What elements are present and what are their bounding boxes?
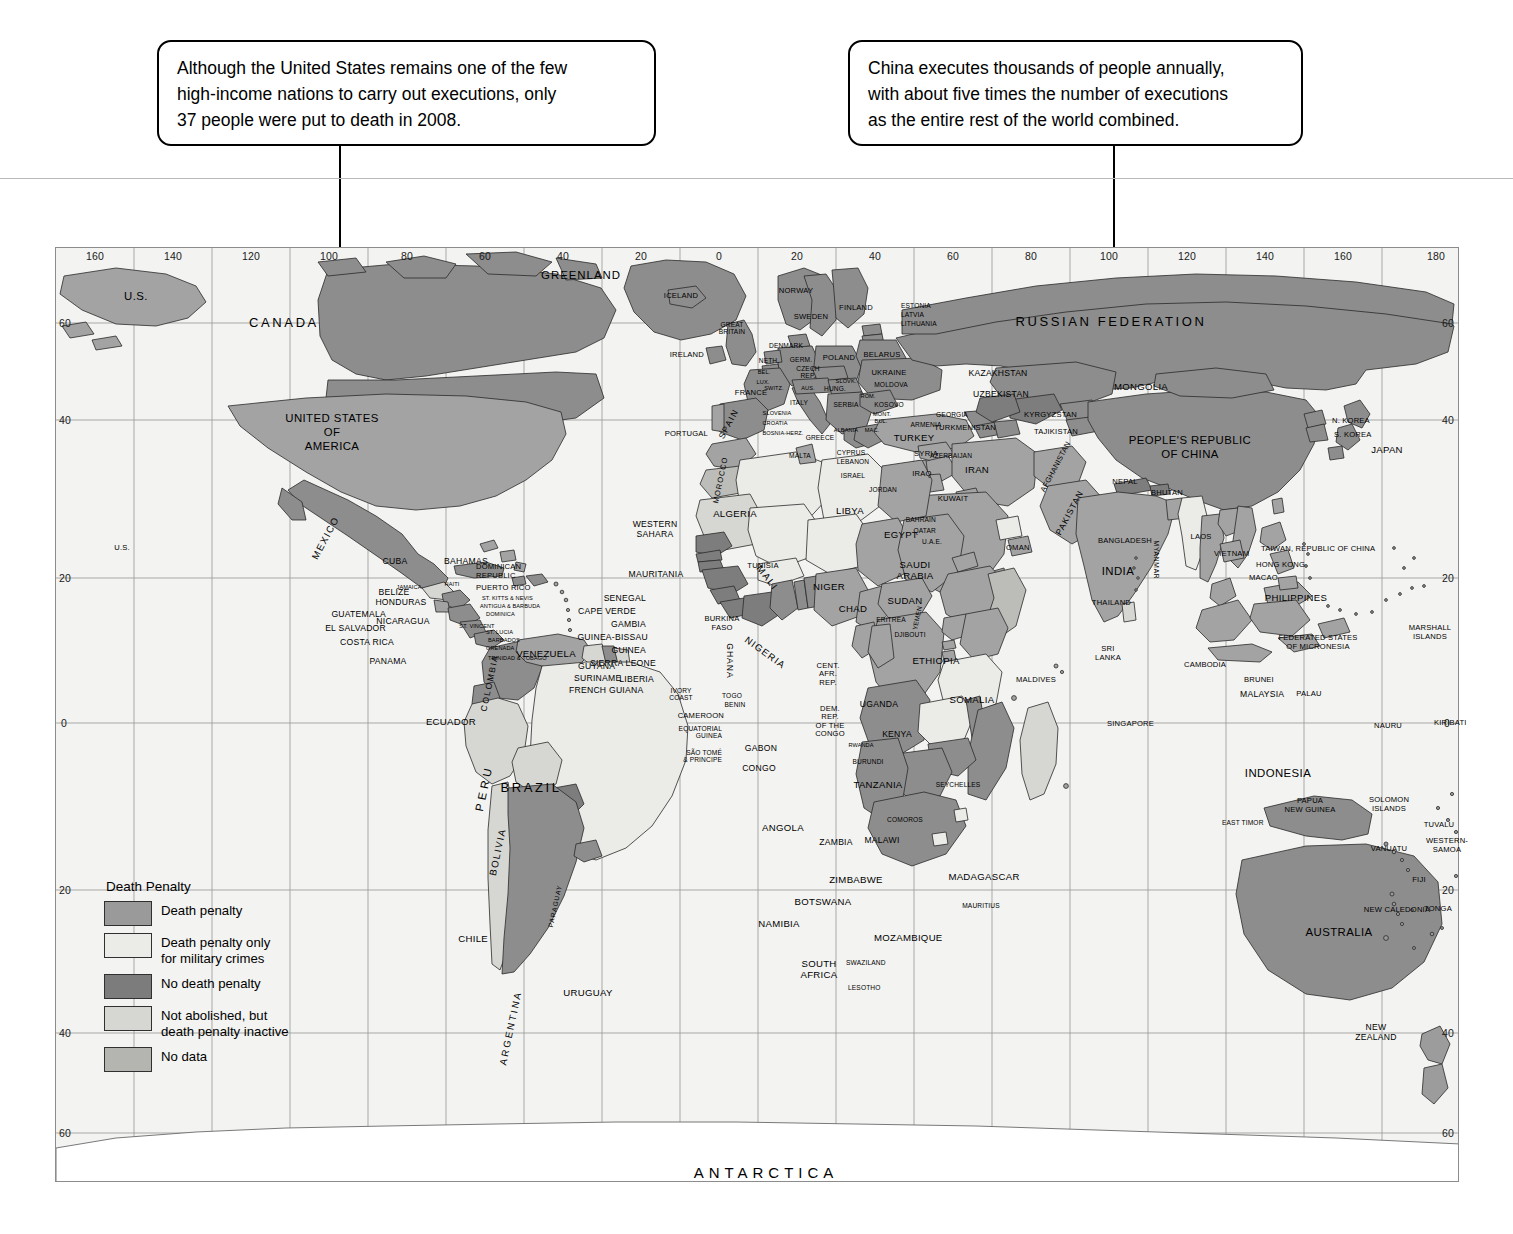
lat-tick: 0 (61, 717, 67, 729)
lon-tick: 80 (401, 250, 413, 262)
lat-tick: 20 (59, 884, 71, 896)
lat-tick: 40 (1442, 1027, 1454, 1039)
us-callout-line-3: 37 people were put to death in 2008. (177, 108, 636, 134)
lon-tick: 20 (791, 250, 803, 262)
lat-tick: 60 (59, 1127, 71, 1139)
lon-tick: 0 (716, 250, 722, 262)
us-callout-line-1: Although the United States remains one o… (177, 56, 636, 82)
lon-tick: 60 (479, 250, 491, 262)
china-callout-line-2: with about five times the number of exec… (868, 82, 1283, 108)
lat-tick: 20 (1442, 884, 1454, 896)
legend-item-no-death-penalty: No death penalty (104, 974, 320, 999)
legend-label: Not abolished, but death penalty inactiv… (161, 1006, 289, 1040)
legend-title: Death Penalty (106, 879, 320, 894)
lat-tick: 60 (59, 317, 71, 329)
lat-tick: 20 (59, 572, 71, 584)
legend-label: Death penalty only for military crimes (161, 933, 270, 967)
lon-tick: 180 (1427, 250, 1445, 262)
lat-tick: 40 (59, 414, 71, 426)
lon-tick: 100 (320, 250, 338, 262)
lon-tick: 140 (1256, 250, 1274, 262)
us-callout-line-2: high-income nations to carry out executi… (177, 82, 636, 108)
legend-item-inactive: Not abolished, but death penalty inactiv… (104, 1006, 320, 1040)
china-callout: China executes thousands of people annua… (848, 40, 1303, 146)
lon-tick: 120 (1178, 250, 1196, 262)
legend-label: No death penalty (161, 974, 261, 992)
lon-tick: 40 (869, 250, 881, 262)
lon-tick: 60 (947, 250, 959, 262)
legend-item-no-data: No data (104, 1047, 320, 1072)
lon-tick: 100 (1100, 250, 1118, 262)
lat-tick: 60 (1442, 317, 1454, 329)
legend-label: Death penalty (161, 901, 242, 919)
china-callout-line-1: China executes thousands of people annua… (868, 56, 1283, 82)
header-divider (0, 178, 1513, 179)
legend-swatch (104, 933, 152, 958)
legend-item-death-penalty: Death penalty (104, 901, 320, 926)
lon-tick: 160 (86, 250, 104, 262)
us-callout: Although the United States remains one o… (157, 40, 656, 146)
lon-tick: 80 (1025, 250, 1037, 262)
legend-item-military-only: Death penalty only for military crimes (104, 933, 320, 967)
legend-swatch (104, 901, 152, 926)
legend-label: No data (161, 1047, 207, 1065)
lon-tick: 40 (557, 250, 569, 262)
lat-tick: 40 (59, 1027, 71, 1039)
lon-tick: 120 (242, 250, 260, 262)
china-callout-line-3: as the entire rest of the world combined… (868, 108, 1283, 134)
lat-tick: 40 (1442, 414, 1454, 426)
legend-swatch (104, 1006, 152, 1031)
lon-tick: 20 (635, 250, 647, 262)
legend-swatch (104, 974, 152, 999)
lat-tick: 0 (1444, 717, 1450, 729)
world-map: 160 140 120 100 80 60 40 20 0 20 40 60 8… (55, 247, 1459, 1182)
map-legend: Death Penalty Death penalty Death penalt… (96, 873, 328, 1087)
legend-swatch (104, 1047, 152, 1072)
lat-tick: 20 (1442, 572, 1454, 584)
lon-tick: 160 (1334, 250, 1352, 262)
lon-tick: 140 (164, 250, 182, 262)
lat-tick: 60 (1442, 1127, 1454, 1139)
